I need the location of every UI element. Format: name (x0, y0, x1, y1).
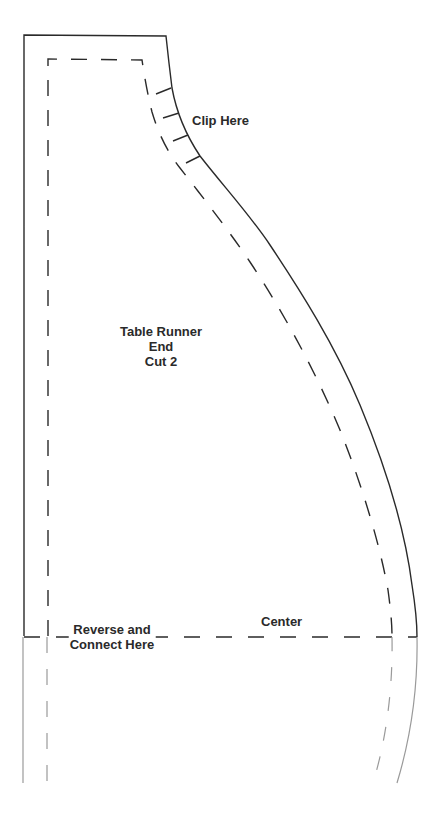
clip-mark-1 (156, 88, 171, 94)
clip-mark-4 (186, 156, 200, 163)
reverse-connect-line2: Connect Here (69, 637, 156, 652)
mirror-right-seam-curve (373, 637, 392, 783)
clip-here-label: Clip Here (192, 113, 249, 128)
seam-line-dashed (48, 59, 392, 637)
piece-title-line3: Cut 2 (120, 354, 202, 369)
center-label: Center (261, 614, 302, 629)
mirror-right-cut-curve (397, 637, 417, 783)
piece-title-line1: Table Runner (120, 324, 202, 339)
reverse-connect-label: Reverse and Connect Here (69, 622, 156, 652)
clip-mark-3 (173, 135, 188, 141)
clip-mark-2 (163, 113, 179, 118)
piece-title-line2: End (120, 339, 202, 354)
reverse-connect-line1: Reverse and (69, 622, 156, 637)
mirrored-lower-half (23, 637, 417, 783)
piece-title: Table Runner End Cut 2 (120, 324, 202, 369)
